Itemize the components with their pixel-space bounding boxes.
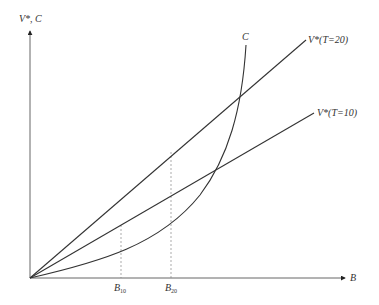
cost-curve-c (30, 45, 246, 278)
v-star-t10-line (30, 113, 314, 278)
b10-label: B10 (114, 282, 126, 294)
v-star-t20-label: V*(T=20) (308, 34, 349, 46)
x-axis-label: B (350, 272, 356, 283)
b20-label-sub: 20 (171, 288, 177, 294)
v-star-t20-line (30, 40, 306, 278)
v-star-t10-label: V*(T=10) (317, 107, 358, 119)
b10-label-sub: 10 (120, 288, 126, 294)
y-axis-label: V*, C (19, 13, 42, 24)
diagram-canvas: V*, C B C V*(T=20) V*(T=10) B10 B20 (0, 0, 379, 305)
b20-label: B20 (165, 282, 177, 294)
curve-c-label: C (242, 31, 249, 42)
